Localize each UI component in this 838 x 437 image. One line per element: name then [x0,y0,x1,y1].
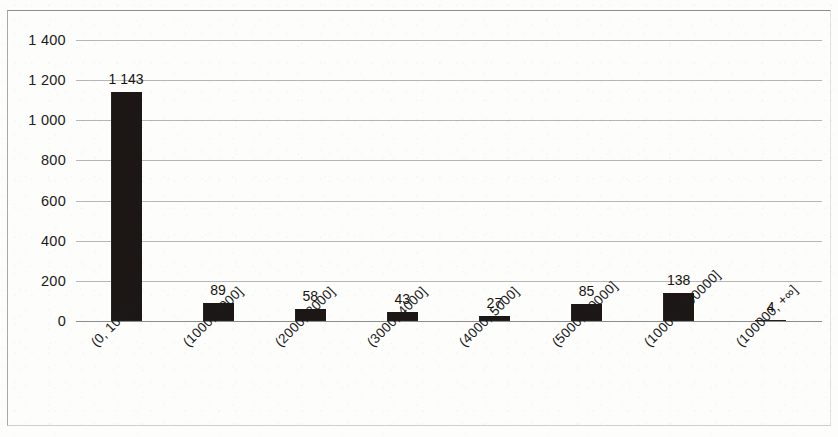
bar [111,92,142,321]
gridline [76,160,822,161]
y-axis-tick-label: 1 400 [28,32,66,48]
bar-value-label: 138 [667,272,690,288]
y-axis-tick-labels: 02004006008001 0001 2001 400 [0,40,66,321]
gridline [76,80,822,81]
bar-value-label: 1 143 [108,71,143,87]
x-axis-category-labels: (0, 1000](1000, 2000](2000, 3000](3000, … [76,325,822,435]
chart-figure: 02004006008001 0001 2001 400 1 143895843… [0,0,838,437]
y-axis-tick-label: 400 [41,233,66,249]
x-axis-baseline [76,321,822,322]
y-axis-tick-label: 600 [41,193,66,209]
y-axis-tick-label: 800 [41,152,66,168]
y-axis-tick-label: 1 000 [28,112,66,128]
gridline [76,201,822,202]
y-axis-tick-label: 1 200 [28,72,66,88]
gridline [76,241,822,242]
y-axis-tick-label: 0 [58,313,66,329]
gridline [76,40,822,41]
y-axis-tick-label: 200 [41,273,66,289]
gridline [76,120,822,121]
